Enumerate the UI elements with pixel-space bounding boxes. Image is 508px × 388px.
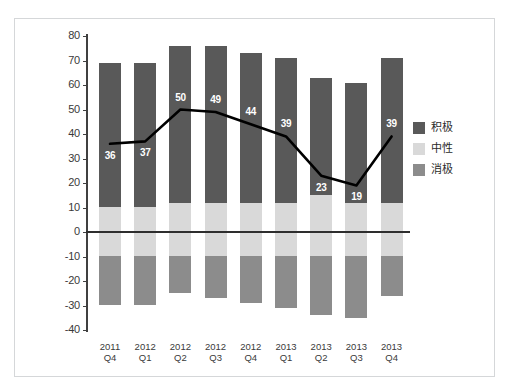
bar-segment-positive: [169, 46, 191, 203]
y-axis-tick-label: 20: [54, 177, 80, 188]
y-axis-tick-label: -40: [54, 324, 80, 335]
y-axis-tick-mark: [83, 183, 86, 184]
bar-segment-negative: [275, 256, 297, 307]
y-axis-tick-mark: [83, 208, 86, 209]
table-row[interactable]: [134, 63, 156, 306]
x-axis-label-line: 2013: [375, 341, 409, 352]
bar-segment-positive: [275, 58, 297, 203]
legend-item-label: 积极: [431, 122, 453, 134]
bar-segment-negative: [240, 256, 262, 303]
chart-legend: 积极中性消极: [413, 122, 453, 185]
x-axis-label-line: 2013: [304, 341, 338, 352]
bar-segment-neutral: [169, 203, 191, 257]
line-data-label: 39: [381, 119, 403, 129]
x-axis-label-line: Q4: [93, 352, 127, 363]
x-axis-label-line: Q4: [234, 352, 268, 363]
x-axis-label-line: 2013: [339, 341, 373, 352]
x-axis-label-line: 2012: [128, 341, 162, 352]
y-axis-tick-label: 0: [54, 226, 80, 237]
x-axis-tick-label: 2013Q2: [304, 341, 338, 363]
y-axis-tick-label: 70: [54, 55, 80, 66]
x-axis-tick-label: 2012Q2: [163, 341, 197, 363]
bar-segment-neutral: [381, 203, 403, 257]
x-axis-tick-label: 2013Q1: [269, 341, 303, 363]
y-axis-tick-mark: [83, 159, 86, 160]
y-axis-tick-mark: [83, 330, 86, 331]
line-data-label: 39: [275, 119, 297, 129]
legend-swatch-icon: [413, 143, 425, 155]
bar-segment-neutral: [345, 203, 367, 257]
bar-segment-positive: [345, 83, 367, 203]
y-axis-tick-label: 80: [54, 30, 80, 41]
x-axis-tick-label: 2013Q3: [339, 341, 373, 363]
y-axis-tick-label: 10: [54, 202, 80, 213]
bar-segment-positive: [99, 63, 121, 208]
bar-segment-positive: [205, 46, 227, 203]
bar-segment-positive: [310, 78, 332, 196]
y-axis-tick-mark: [83, 306, 86, 307]
x-axis-label-line: Q1: [269, 352, 303, 363]
y-axis-tick-mark: [83, 36, 86, 37]
y-axis-tick-label: -20: [54, 275, 80, 286]
bar-segment-positive: [381, 58, 403, 203]
x-axis-label-line: 2012: [163, 341, 197, 352]
legend-item-label: 中性: [431, 143, 453, 155]
y-axis-tick-label: 60: [54, 79, 80, 90]
x-axis-label-line: Q1: [128, 352, 162, 363]
bar-segment-negative: [381, 256, 403, 295]
line-data-label: 37: [134, 148, 156, 158]
legend-swatch-icon: [413, 122, 425, 134]
x-axis-tick-label: 2012Q4: [234, 341, 268, 363]
line-data-label: 50: [169, 93, 191, 103]
y-axis-tick-label: -10: [54, 251, 80, 262]
table-row[interactable]: [240, 53, 262, 303]
bar-segment-negative: [205, 256, 227, 298]
zero-baseline: [86, 231, 410, 233]
bar-segment-negative: [169, 256, 191, 293]
y-axis-tick-label: 50: [54, 104, 80, 115]
table-row[interactable]: [381, 58, 403, 296]
legend-item[interactable]: 积极: [413, 122, 453, 134]
legend-item-label: 消极: [431, 164, 453, 176]
bar-segment-negative: [310, 256, 332, 315]
y-axis-tick-mark: [83, 257, 86, 258]
legend-item[interactable]: 消极: [413, 164, 453, 176]
x-axis-label-line: 2011: [93, 341, 127, 352]
y-axis-tick-label: -30: [54, 300, 80, 311]
x-axis-label-line: 2012: [234, 341, 268, 352]
bar-segment-neutral: [275, 203, 297, 257]
x-axis-label-line: Q4: [375, 352, 409, 363]
x-axis-label-line: 2013: [269, 341, 303, 352]
table-row[interactable]: [275, 58, 297, 308]
x-axis-tick-label: 2012Q3: [199, 341, 233, 363]
bar-segment-negative: [345, 256, 367, 317]
legend-swatch-icon: [413, 164, 425, 176]
line-data-label: 44: [240, 107, 262, 117]
x-axis-label-line: Q2: [163, 352, 197, 363]
x-axis-label-line: Q3: [199, 352, 233, 363]
x-axis-label-line: Q3: [339, 352, 373, 363]
line-data-label: 23: [310, 183, 332, 193]
y-axis-tick-mark: [83, 134, 86, 135]
y-axis-tick-label: 40: [54, 128, 80, 139]
table-row[interactable]: [205, 46, 227, 298]
bar-segment-neutral: [310, 195, 332, 256]
x-axis-tick-label: 2011Q4: [93, 341, 127, 363]
x-axis-label-line: Q2: [304, 352, 338, 363]
bar-segment-negative: [134, 256, 156, 305]
y-axis-tick-mark: [83, 110, 86, 111]
bar-segment-neutral: [240, 203, 262, 257]
bar-segment-positive: [240, 53, 262, 202]
table-row[interactable]: [169, 46, 191, 293]
x-axis-tick-label: 2013Q4: [375, 341, 409, 363]
table-row[interactable]: [99, 63, 121, 306]
y-axis-tick-mark: [83, 85, 86, 86]
line-data-label: 36: [99, 151, 121, 161]
line-data-label: 19: [345, 192, 367, 202]
table-row[interactable]: [310, 78, 332, 316]
bar-segment-negative: [99, 256, 121, 305]
legend-item[interactable]: 中性: [413, 143, 453, 155]
line-data-label: 49: [205, 95, 227, 105]
y-axis-tick-label: 30: [54, 153, 80, 164]
bar-segment-positive: [134, 63, 156, 208]
